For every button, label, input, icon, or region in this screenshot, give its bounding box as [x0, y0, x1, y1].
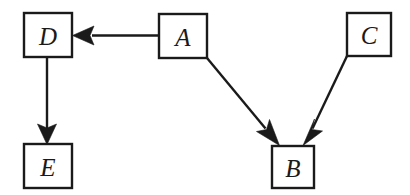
node-e-label: E	[39, 154, 55, 181]
node-b[interactable]: B	[272, 146, 314, 188]
node-a[interactable]: A	[159, 14, 207, 58]
edge-c-to-b-arrowhead	[303, 119, 323, 146]
node-c[interactable]: C	[347, 13, 391, 56]
node-a-label: A	[173, 24, 191, 51]
edge-a-to-b-line	[207, 58, 266, 129]
graph-svg: D A C E B	[0, 0, 410, 195]
edge-a-to-d-arrowhead	[73, 26, 95, 45]
edge-d-to-e	[38, 57, 57, 145]
node-b-label: B	[285, 155, 300, 182]
node-d-label: D	[38, 23, 57, 50]
edge-c-to-b	[303, 56, 347, 146]
diagram-canvas: D A C E B	[0, 0, 410, 195]
edge-c-to-b-line	[313, 56, 348, 129]
node-d[interactable]: D	[24, 13, 72, 57]
node-c-label: C	[361, 22, 378, 49]
node-e[interactable]: E	[24, 144, 72, 188]
edge-a-to-b	[207, 58, 280, 146]
edge-a-to-d	[73, 26, 160, 45]
